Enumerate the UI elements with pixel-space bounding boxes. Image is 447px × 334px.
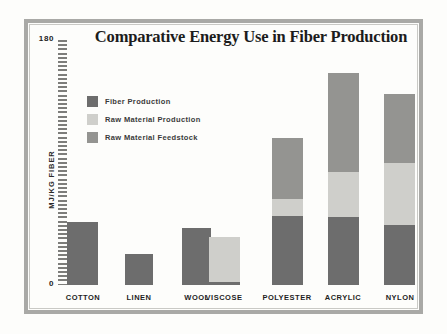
bar-segment-fiber-production <box>384 225 415 285</box>
bar-cotton <box>67 222 98 285</box>
bar-segment-fiber-production <box>67 222 98 285</box>
bar-segment-raw-material-production <box>328 172 359 217</box>
bar-segment-raw-material-production <box>272 199 303 215</box>
bar-nylon <box>384 94 415 285</box>
bar-segment-raw-material-production <box>209 237 240 282</box>
bar-segment-raw-material-production <box>384 163 415 226</box>
bar-segment-fiber-production <box>125 254 153 285</box>
bar-acrylic <box>328 73 359 285</box>
bar-segment-fiber-production <box>209 282 240 285</box>
bar-segment-fiber-production <box>182 228 211 285</box>
bar-wool <box>182 228 211 285</box>
bar-segment-fiber-production <box>272 216 303 285</box>
x-axis-label-nylon: NYLON <box>360 293 440 302</box>
bar-segment-raw-material-feedstock <box>328 73 359 172</box>
chart-container: Comparative Energy Use in Fiber Producti… <box>0 0 447 334</box>
bar-segment-raw-material-feedstock <box>272 138 303 199</box>
bars-layer: COTTONLINENWOOLVISCOSEPOLYESTERACRYLICNY… <box>0 0 447 334</box>
bar-segment-raw-material-feedstock <box>384 94 415 162</box>
bar-viscose <box>209 237 240 285</box>
bar-polyester <box>272 138 303 285</box>
bar-linen <box>125 254 153 285</box>
bar-segment-fiber-production <box>328 217 359 285</box>
plot-area: Comparative Energy Use in Fiber Producti… <box>0 0 447 334</box>
